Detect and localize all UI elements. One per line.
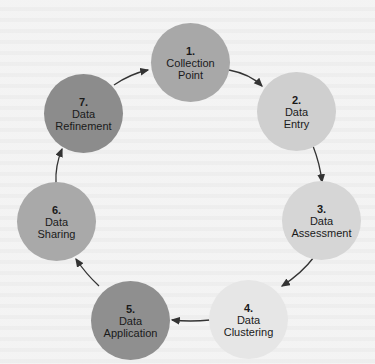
node-label-line2: Assessment [292,227,352,239]
arrow-4-to-5 [172,320,210,321]
node-label-line2: Application [104,327,158,339]
node-label-line2: Sharing [38,228,76,240]
node-number: 7. [79,96,88,108]
node-number: 6. [52,204,61,216]
node-label-line1: Data [72,108,95,120]
node-label-line1: Collection [166,57,214,69]
node-data-application: 5. Data Application [91,281,170,360]
node-data-clustering: 4. Data Clustering [209,280,288,359]
node-data-entry: 2. Data Entry [257,72,336,151]
node-label-line2: Entry [284,118,310,130]
node-number: 3. [317,203,326,215]
node-collection-point: 1. Collection Point [151,23,230,102]
node-label-line1: Data [310,215,333,227]
node-label-line1: Data [119,315,142,327]
node-number: 2. [292,94,301,106]
arrow-2-to-3 [313,146,322,182]
node-label-line2: Clustering [224,326,274,338]
node-number: 5. [126,303,135,315]
arrow-3-to-4 [282,257,314,286]
arrow-1-to-2 [229,70,262,86]
arrow-7-to-1 [114,70,148,85]
node-label-line1: Data [237,314,260,326]
arrow-6-to-7 [56,149,62,183]
node-number: 1. [186,45,195,57]
node-label-line2: Refinement [55,120,111,132]
node-label-line2: Point [178,69,203,81]
node-label-line1: Data [285,106,308,118]
arrow-5-to-6 [76,259,99,286]
node-label-line1: Data [45,216,68,228]
node-number: 4. [244,302,253,314]
node-data-assessment: 3. Data Assessment [282,181,361,260]
node-data-sharing: 6. Data Sharing [17,182,96,261]
node-data-refinement: 7. Data Refinement [44,74,123,153]
